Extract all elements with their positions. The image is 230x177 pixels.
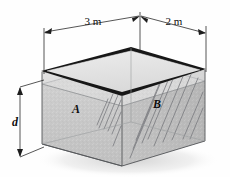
arrow-3m-left [44, 28, 52, 34]
arrow-2m-right [198, 29, 206, 35]
dimension-label-2m: 2 m [166, 15, 183, 27]
region-label-A: A [71, 102, 80, 116]
region-label-B: B [152, 97, 161, 111]
tank-diagram-svg: A B 3 m 2 m d [0, 0, 230, 177]
dimension-label-3m: 3 m [85, 15, 102, 27]
dimension-label-d: d [12, 115, 19, 129]
figure-container: A B 3 m 2 m d [0, 0, 230, 177]
ext-line-d-top [20, 80, 44, 87]
arrow-d-top [17, 87, 23, 95]
